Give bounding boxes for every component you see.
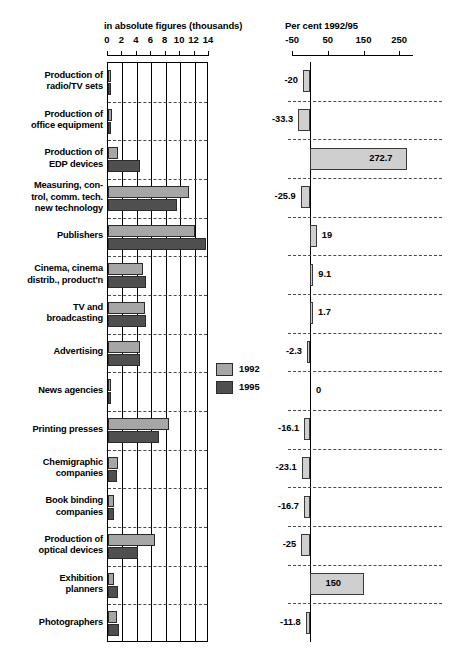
bar-percent-change xyxy=(310,264,313,286)
percent-value-label: 19 xyxy=(322,230,332,240)
category-label-line: Production of xyxy=(2,109,103,121)
right-tick-label-3: 250 xyxy=(383,34,415,45)
right-row-separator-9 xyxy=(288,410,442,411)
category-label-line: broadcasting xyxy=(2,313,103,325)
left-axis-tick-4 xyxy=(165,51,166,56)
left-row-separator-5 xyxy=(108,256,207,257)
bar-1995 xyxy=(108,276,146,288)
bar-percent-change xyxy=(310,148,407,170)
legend-label: 1992 xyxy=(239,364,260,374)
bar-percent-change xyxy=(304,418,310,440)
left-row-separator-14 xyxy=(108,604,207,605)
left-gridline-6 xyxy=(195,63,196,641)
absolute-figures-plot xyxy=(107,62,208,642)
percent-value-label: -11.8 xyxy=(258,617,301,627)
left-gridline-5 xyxy=(180,63,181,641)
bar-percent-change xyxy=(303,70,310,92)
category-label-line: Photographers xyxy=(2,617,103,629)
chart-page: in absolute figures (thousands) Per cent… xyxy=(0,0,456,663)
legend-item: 1995 xyxy=(216,378,278,396)
bar-percent-change xyxy=(307,341,310,363)
bar-1992 xyxy=(108,302,145,314)
category-label-line: companies xyxy=(2,468,103,480)
category-label-line: new technology xyxy=(2,203,103,215)
category-label: Measuring, con-trol, comm. tech.new tech… xyxy=(2,180,103,215)
left-row-separator-6 xyxy=(108,295,207,296)
bar-1995 xyxy=(108,83,111,95)
percent-value-label: 150 xyxy=(326,578,342,588)
percent-value-label: -25 xyxy=(253,539,296,549)
bar-1992 xyxy=(108,70,111,82)
right-panel-title: Per cent 1992/95 xyxy=(285,20,358,31)
category-label: TV andbroadcasting xyxy=(2,302,103,325)
percent-value-label: -20 xyxy=(255,75,298,85)
bar-1995 xyxy=(108,586,118,598)
category-label-line: Exhibition xyxy=(2,573,103,585)
bar-1995 xyxy=(108,160,140,172)
legend-swatch-1995 xyxy=(216,381,233,394)
category-label-line: companies xyxy=(2,507,103,519)
bar-1992 xyxy=(108,457,118,469)
left-row-separator-2 xyxy=(108,140,207,141)
right-axis-tick-3 xyxy=(399,51,400,56)
bar-1995 xyxy=(108,238,206,250)
bar-1995 xyxy=(108,315,146,327)
bar-percent-change xyxy=(304,496,310,518)
left-gridline-4 xyxy=(166,63,167,641)
category-label-line: Printing presses xyxy=(2,424,103,436)
bar-1992 xyxy=(108,341,140,353)
percent-value-label: -16.1 xyxy=(256,423,299,433)
left-gridline-3 xyxy=(151,63,152,641)
bar-1992 xyxy=(108,147,118,159)
category-label: Advertising xyxy=(2,346,103,358)
left-row-separator-1 xyxy=(108,102,207,103)
percent-value-label: 0 xyxy=(316,385,321,395)
category-label-line: optical devices xyxy=(2,545,103,557)
bar-1992 xyxy=(108,186,189,198)
bar-percent-change xyxy=(310,225,317,247)
right-axis-line xyxy=(292,55,413,56)
left-row-separator-12 xyxy=(108,527,207,528)
bar-percent-change xyxy=(310,302,313,324)
category-label-line: Book binding xyxy=(2,495,103,507)
left-row-separator-8 xyxy=(108,372,207,373)
bar-1995 xyxy=(108,431,159,443)
right-tick-label-2: 150 xyxy=(348,34,380,45)
right-axis-tick-1 xyxy=(328,51,329,56)
bar-1995 xyxy=(108,199,177,211)
right-row-separator-6 xyxy=(288,294,442,295)
right-axis-tick-2 xyxy=(364,51,365,56)
bar-1992 xyxy=(108,534,155,546)
left-axis-tick-6 xyxy=(194,51,195,56)
category-label-line: Production of xyxy=(2,534,103,546)
left-row-separator-7 xyxy=(108,334,207,335)
category-label: Chemigraphiccompanies xyxy=(2,457,103,480)
left-row-separator-3 xyxy=(108,179,207,180)
bar-1992 xyxy=(108,611,117,623)
category-label-line: trol, comm. tech. xyxy=(2,192,103,204)
category-label-line: planners xyxy=(2,584,103,596)
right-row-separator-8 xyxy=(288,371,442,372)
category-label: Photographers xyxy=(2,617,103,629)
percent-value-label: -25.9 xyxy=(253,191,296,201)
left-row-separator-10 xyxy=(108,450,207,451)
category-label-line: TV and xyxy=(2,302,103,314)
category-label-line: Cinema, cinema xyxy=(2,263,103,275)
bar-percent-change xyxy=(301,186,310,208)
bar-1995 xyxy=(108,470,117,482)
right-tick-label-0: -50 xyxy=(276,34,308,45)
category-label-line: radio/TV sets xyxy=(2,81,103,93)
right-row-separator-2 xyxy=(288,139,442,140)
category-label: Exhibitionplanners xyxy=(2,573,103,596)
category-label-line: News agencies xyxy=(2,385,103,397)
left-row-separator-13 xyxy=(108,566,207,567)
right-row-separator-13 xyxy=(288,565,442,566)
right-axis-tick-0 xyxy=(292,51,293,56)
right-row-separator-3 xyxy=(288,178,442,179)
percent-value-label: -2.3 xyxy=(259,346,302,356)
bar-1995 xyxy=(108,122,111,134)
bar-1995 xyxy=(108,392,111,404)
bar-1995 xyxy=(108,508,114,520)
right-row-separator-4 xyxy=(288,217,442,218)
left-axis-tick-7 xyxy=(208,51,209,56)
